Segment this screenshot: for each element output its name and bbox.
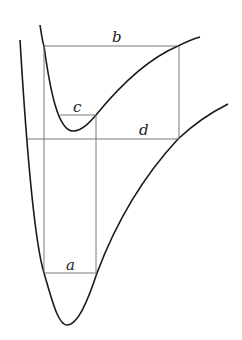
lower-potential-curve bbox=[20, 40, 228, 325]
label-b: b bbox=[112, 28, 122, 46]
label-d: d bbox=[139, 121, 149, 139]
label-a: a bbox=[66, 256, 75, 274]
label-c: c bbox=[73, 98, 82, 116]
potential-energy-diagram: b c d a bbox=[0, 0, 242, 340]
